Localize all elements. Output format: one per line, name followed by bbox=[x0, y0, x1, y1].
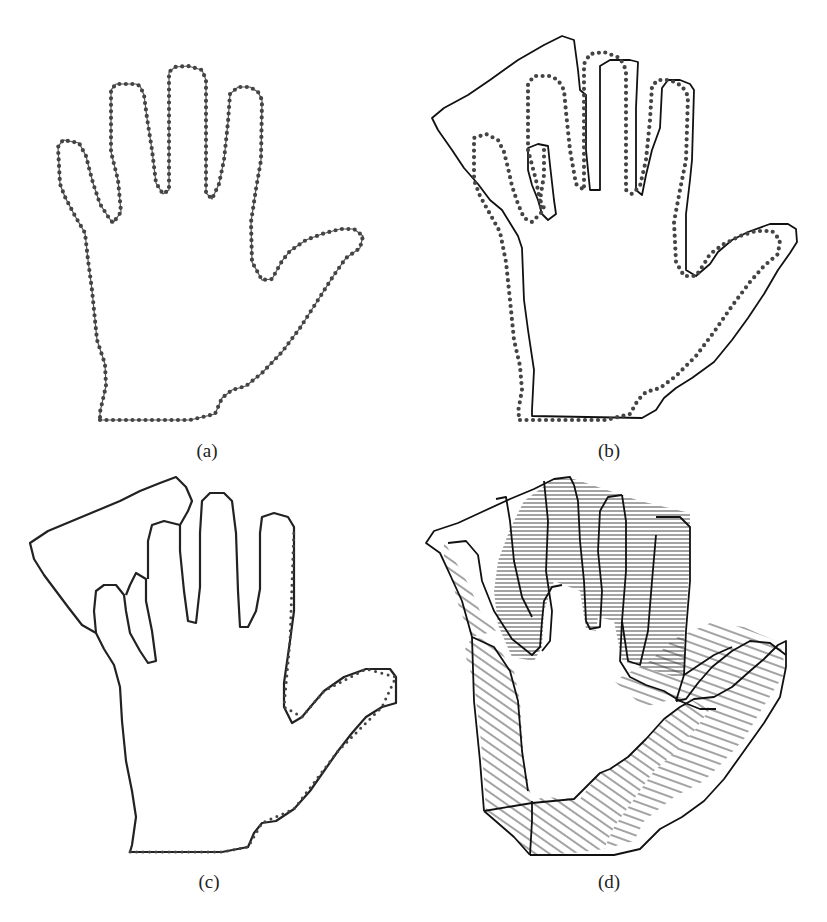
hand-correspondence-hatching bbox=[414, 461, 827, 922]
panel-b-caption: (b) bbox=[579, 440, 639, 462]
hand-contour-aligned bbox=[0, 461, 414, 922]
hand-contour-dotted bbox=[0, 0, 414, 461]
panel-d-caption: (d) bbox=[579, 871, 639, 893]
hand-contour-overlay bbox=[414, 0, 827, 461]
panel-a: (a) bbox=[0, 0, 414, 461]
finger-band-region bbox=[494, 479, 690, 676]
panel-d: (d) bbox=[414, 461, 827, 922]
deformed-contour bbox=[432, 36, 797, 418]
panel-c: (c) bbox=[0, 461, 414, 922]
panel-c-caption: (c) bbox=[179, 871, 239, 893]
panel-a-caption: (a) bbox=[177, 440, 237, 462]
panel-b: (b) bbox=[414, 0, 827, 461]
